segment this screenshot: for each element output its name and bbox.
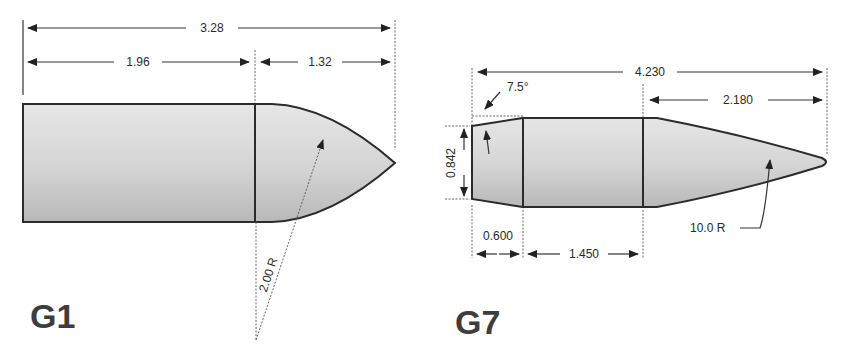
g1-ogive-nose [255,104,395,222]
g1-ogive-radius: 2.00 R [256,255,280,293]
g7-base-diameter: 0.842 [444,148,458,178]
g1-body-length: 1.96 [126,55,150,69]
g1-label: G1 [30,297,75,335]
g7-boattail-angle: 7.5° [507,80,529,94]
g7-ogive-nose [643,118,826,207]
g7-ogive-radius: 10.0 R [690,221,726,235]
g7-overall-length: 4.230 [635,65,665,79]
g7-nose-length: 2.180 [723,93,753,107]
g1-diagram: 3.28 1.96 1.32 2.00 R G1 [23,20,395,340]
g7-diagram: 4.230 7.5° 2.180 0.842 0.600 [444,65,827,341]
g7-cylindrical-body [523,118,643,207]
g7-label: G7 [455,303,500,341]
g7-boattail-length: 0.600 [483,229,513,243]
projectile-diagram: 3.28 1.96 1.32 2.00 R G1 4.230 7.5° [0,0,853,357]
g1-cylindrical-body [23,104,255,222]
g1-nose-length: 1.32 [308,55,332,69]
g7-boattail [472,118,523,207]
g7-body-length: 1.450 [569,247,599,261]
g1-overall-length: 3.28 [200,21,224,35]
g7-angle-arrow [485,92,500,109]
